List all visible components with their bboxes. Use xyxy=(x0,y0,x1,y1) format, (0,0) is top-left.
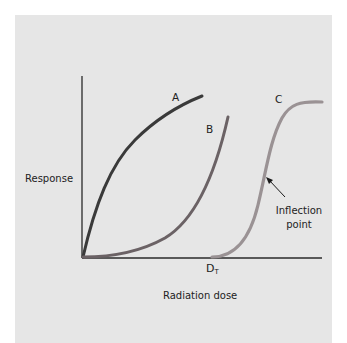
curve-c-label: C xyxy=(275,94,282,105)
inflection-arrow-shaft xyxy=(269,180,285,197)
threshold-sub: T xyxy=(214,268,218,276)
x-axis-label: Radiation dose xyxy=(163,291,237,301)
curve-a xyxy=(83,96,202,257)
y-axis-label: Response xyxy=(25,174,73,184)
curve-a-label: A xyxy=(172,92,179,103)
threshold-dose-label: DT xyxy=(206,263,219,276)
curve-b-label: B xyxy=(206,124,213,135)
inflection-label-line2: point xyxy=(272,220,326,230)
inflection-label-line1: Inflection xyxy=(272,206,326,216)
curve-c xyxy=(212,102,322,257)
